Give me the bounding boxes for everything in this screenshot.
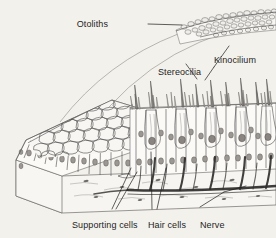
otolith-mass (176, 9, 276, 44)
label-kinocilium: Kinocilium (214, 55, 256, 65)
anatomical-diagram: Otoliths Stereocilia Kinocilium Supporti… (0, 0, 276, 238)
label-otoliths: Otoliths (77, 19, 109, 29)
label-hair-cells: Hair cells (148, 220, 186, 230)
label-nerve: Nerve (200, 220, 225, 230)
label-supporting-cells: Supporting cells (72, 220, 138, 230)
sensory-epithelium (130, 103, 276, 176)
label-stereocilia: Stereocilia (158, 67, 201, 77)
